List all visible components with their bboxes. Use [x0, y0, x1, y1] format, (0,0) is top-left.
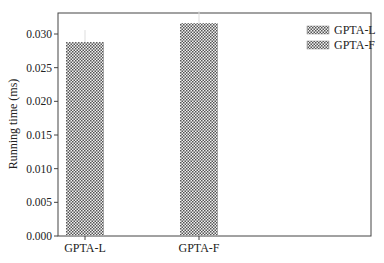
y-tick-label: 0.010: [26, 163, 52, 175]
legend: GPTA-L GPTA-F: [300, 17, 376, 57]
x-tick-label: GPTA-F: [178, 241, 219, 255]
y-tick-label: 0.005: [26, 196, 52, 208]
bar-chart: 0.0000.0050.0100.0150.0200.0250.030 GPTA…: [0, 0, 384, 263]
legend-label-gpta-f: GPTA-F: [334, 38, 375, 52]
legend-swatch-gpta-l: [307, 26, 329, 34]
bar-gpta-l: [66, 42, 104, 236]
legend-label-gpta-l: GPTA-L: [334, 23, 376, 37]
y-tick-label: 0.020: [26, 95, 52, 107]
y-tick-label: 0.030: [26, 28, 52, 40]
bars: [66, 11, 218, 236]
y-axis: 0.0000.0050.0100.0150.0200.0250.030: [26, 28, 58, 242]
x-axis: GPTA-LGPTA-F: [64, 236, 220, 255]
legend-swatch-gpta-f: [307, 41, 329, 49]
y-axis-label: Running time (ms): [6, 79, 20, 170]
bar-gpta-f: [180, 23, 218, 236]
y-tick-label: 0.025: [26, 62, 52, 74]
x-tick-label: GPTA-L: [64, 241, 106, 255]
y-tick-label: 0.000: [26, 230, 52, 242]
y-tick-label: 0.015: [26, 129, 52, 141]
